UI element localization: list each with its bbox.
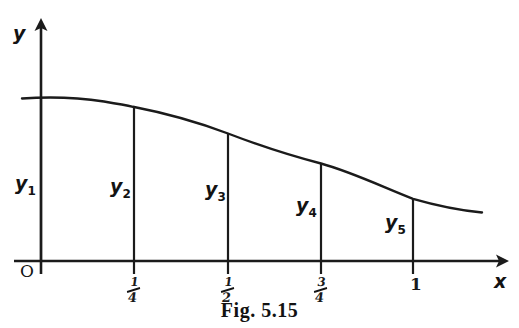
ordinate-label-y3: y3 xyxy=(205,180,226,203)
ordinate-label-y2-base: y xyxy=(110,175,122,197)
ordinate-label-y1-base: y xyxy=(15,172,27,194)
ordinate-label-y3-base: y xyxy=(205,178,217,200)
ordinate-label-y5: y5 xyxy=(385,213,406,236)
ordinate-label-y2: y2 xyxy=(110,177,131,200)
figure-drawing xyxy=(0,0,519,328)
ordinate-label-y1-subscript: 1 xyxy=(27,184,35,198)
ordinate-label-y4: y4 xyxy=(296,196,317,219)
ordinate-label-y5-base: y xyxy=(385,211,397,233)
figure-caption: Fig. 5.15 xyxy=(0,299,519,322)
origin-label: O xyxy=(20,263,34,280)
ordinate-label-y4-subscript: 4 xyxy=(308,206,316,220)
y-axis-label: y xyxy=(13,24,25,43)
x-axis-label: x xyxy=(494,272,506,291)
tick-label-one: 1 xyxy=(410,276,422,293)
ordinate-label-y4-base: y xyxy=(296,194,308,216)
curve-path xyxy=(22,98,482,213)
ordinate-label-y5-subscript: 5 xyxy=(397,223,405,237)
ordinate-label-y3-subscript: 3 xyxy=(217,190,225,204)
figure-container: y x O y1 y2 y3 y4 y5 1 4 1 2 3 4 1 Fig. … xyxy=(0,0,519,328)
ordinate-label-y2-subscript: 2 xyxy=(122,187,130,201)
ordinate-label-y1: y1 xyxy=(15,174,36,197)
